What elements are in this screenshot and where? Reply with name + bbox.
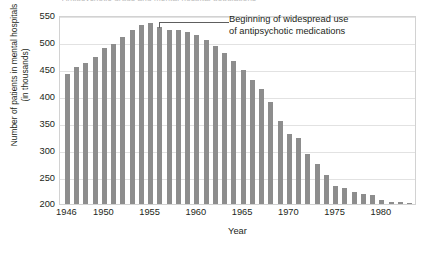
annotation-line2: of antipsychotic medications [229, 26, 425, 38]
bar [324, 175, 329, 204]
y-axis-tick-label: 400 [5, 92, 55, 102]
bar [167, 30, 172, 204]
bar [176, 30, 181, 204]
x-axis-tick-label: 1955 [139, 207, 160, 217]
bar [111, 44, 116, 204]
bar [185, 32, 190, 204]
bar [148, 23, 153, 204]
bar [407, 203, 412, 204]
x-axis-tick-label: 1970 [278, 207, 299, 217]
y-axis-tick-label: 500 [5, 38, 55, 48]
bar [120, 37, 125, 204]
bar [231, 61, 236, 204]
bar [379, 200, 384, 204]
y-axis-tick-label: 450 [5, 65, 55, 75]
x-axis-tick-label: 1965 [232, 207, 253, 217]
annotation-leader-tick [159, 22, 160, 28]
bar [352, 192, 357, 204]
bar [102, 48, 107, 204]
bar [250, 80, 255, 204]
y-axis-tick-labels: 200250300350400450500550 [0, 0, 59, 221]
clipped-figure-caption: Antipsychotic drugs and mental hospital … [62, 0, 262, 1]
bar [268, 102, 273, 204]
bar-series [60, 17, 415, 204]
x-axis-tick-label: 1975 [324, 207, 345, 217]
bar [370, 195, 375, 204]
bar [157, 27, 162, 204]
y-axis-tick-label: 550 [5, 11, 55, 21]
bar [305, 154, 310, 204]
bar [287, 134, 292, 204]
bar-chart-figure: Antipsychotic drugs and mental hospital … [0, 0, 428, 257]
bar [342, 188, 347, 204]
x-axis-tick-labels: 19461950195519601965197019751980 [0, 207, 428, 221]
y-axis-tick-label: 350 [5, 119, 55, 129]
plot-area [59, 16, 416, 205]
bar [204, 40, 209, 204]
bar [213, 46, 218, 204]
bar [259, 89, 264, 204]
x-axis-title: Year [59, 226, 416, 236]
annotation-line1: Beginning of widespread use [229, 14, 348, 24]
bar [389, 202, 394, 204]
x-axis-tick-label: 1980 [371, 207, 392, 217]
bar [222, 53, 227, 204]
bar [398, 202, 403, 204]
bar [333, 186, 338, 204]
bar [65, 74, 70, 204]
bar [315, 164, 320, 205]
bar [83, 63, 88, 204]
bar [296, 138, 301, 204]
bar [93, 57, 98, 204]
bar [139, 25, 144, 204]
bar [241, 70, 246, 204]
annotation-label: Beginning of widespread use of antipsych… [229, 14, 425, 37]
bar [278, 121, 283, 204]
x-axis-tick-label: 1946 [56, 207, 77, 217]
bar [74, 67, 79, 204]
annotation-leader-line [159, 22, 229, 23]
bar [130, 30, 135, 204]
x-axis-tick-label: 1960 [186, 207, 207, 217]
bar [194, 35, 199, 204]
x-axis-tick-label: 1950 [93, 207, 114, 217]
y-axis-tick-label: 250 [5, 173, 55, 183]
bar [361, 194, 366, 204]
y-axis-tick-label: 300 [5, 146, 55, 156]
